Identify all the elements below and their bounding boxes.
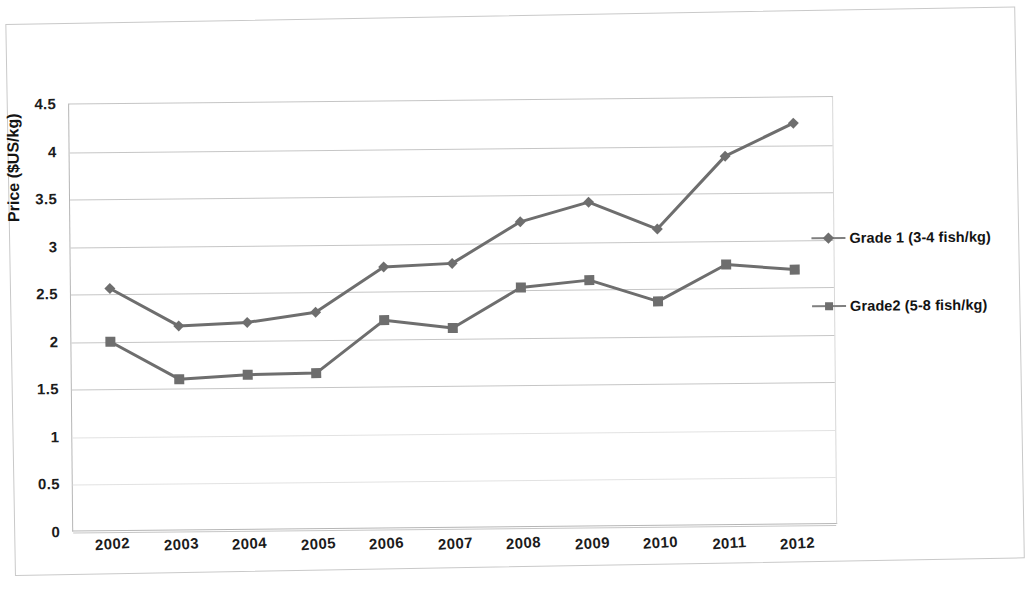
x-axis-tick-label: 2009 [574,533,610,552]
x-axis-tick-label: 2004 [231,534,267,553]
data-point-marker [516,282,526,292]
data-point-marker [105,337,115,347]
data-point-marker [104,283,115,294]
x-axis-tick-label: 2008 [505,533,541,552]
chart-series-layer [68,96,837,531]
data-point-marker [448,323,458,333]
data-point-marker [173,320,184,331]
x-axis-tick-label: 2003 [163,534,199,553]
data-point-marker [653,296,663,306]
series-line [110,264,796,380]
y-axis-tick-label: 1.5 [37,380,59,397]
data-point-marker [379,315,389,325]
data-point-marker [790,265,800,275]
x-axis-tick-label: 2010 [642,533,678,552]
series-line [108,123,795,326]
y-axis-tick-label: 1 [51,428,60,445]
x-axis-tick-label: 2005 [300,534,336,553]
scanned-page-canvas: Price ($US/kg) 4.543.532.521.510.50 2002… [0,0,1031,603]
y-axis-tick-label: 3 [49,238,58,255]
data-point-marker [788,118,799,129]
data-point-marker [311,368,321,378]
legend-diamond-marker-icon [811,232,845,244]
data-point-marker [174,374,184,384]
x-axis-tick-label: 2002 [94,534,130,553]
x-axis-tick-label: 2007 [437,533,473,552]
legend-label: Grade2 (5-8 fish/kg) [850,297,988,314]
data-point-marker [243,370,253,380]
y-axis-tick-label: 4.5 [34,95,56,112]
y-axis-tick-label: 0.5 [38,476,60,493]
x-axis-tick-label: 2011 [711,533,746,552]
y-axis-tick-label: 4 [48,143,57,160]
data-point-marker [242,317,253,328]
legend-entry: Grade 1 (3-4 fish/kg) [811,226,1026,248]
data-point-marker [721,260,731,270]
y-axis-tick-label: 0 [51,523,60,540]
data-point-marker [584,275,594,285]
y-axis-tick-label: 2.5 [36,285,58,302]
legend-square-marker-icon [812,300,846,312]
legend-label: Grade 1 (3-4 fish/kg) [849,229,991,246]
y-axis-tick-label: 3.5 [35,190,57,207]
data-point-marker [583,197,594,208]
x-axis-tick-labels: 2002200320042005200620072008200920102011… [72,528,837,575]
y-axis-tick-labels: 4.543.532.521.510.50 [0,104,68,533]
chart-legend: Grade 1 (3-4 fish/kg)Grade2 (5-8 fish/kg… [811,226,1027,364]
x-axis-tick-label: 2012 [779,533,815,552]
x-axis-tick-label: 2006 [368,534,404,553]
y-axis-tick-label: 2 [50,333,59,350]
legend-entry: Grade2 (5-8 fish/kg) [812,294,1027,316]
